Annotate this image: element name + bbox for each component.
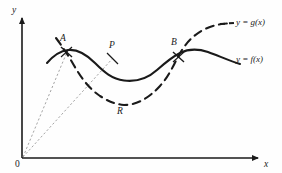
curve-f — [47, 50, 240, 81]
curve-label-g: y = g(x) — [236, 18, 265, 27]
x-axis-label: x — [264, 160, 268, 170]
point-label-a: A — [60, 34, 66, 44]
ray-origin-to-a — [23, 52, 67, 157]
origin-label: 0 — [15, 160, 20, 170]
ray-origin-to-p — [23, 58, 113, 157]
figure-canvas: y x 0 A P B R y = g(x) y = f(x) — [0, 0, 282, 173]
curve-g — [56, 24, 227, 106]
point-label-b: B — [171, 38, 177, 48]
point-label-p: P — [109, 41, 115, 51]
point-label-r: R — [117, 107, 123, 117]
y-axis-label: y — [12, 6, 16, 16]
curve-label-f: y = f(x) — [236, 55, 263, 64]
